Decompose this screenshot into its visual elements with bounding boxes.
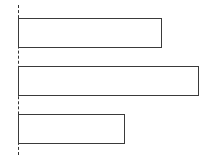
bar-2 bbox=[18, 66, 199, 96]
bar-3 bbox=[18, 114, 125, 144]
bar-1 bbox=[18, 18, 162, 48]
bar-chart bbox=[0, 0, 213, 163]
